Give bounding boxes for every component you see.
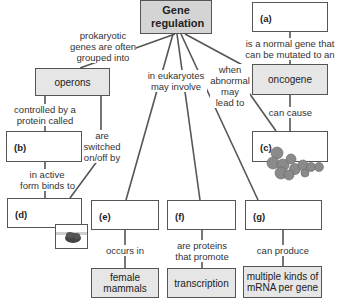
link-text: can produce <box>255 245 311 256</box>
link-text: abnormal <box>210 75 250 86</box>
node-b-label: (b) <box>14 142 26 153</box>
node-oncogene: oncogene <box>252 64 328 95</box>
link-text: protein called <box>10 115 80 126</box>
operons-text: operons <box>54 77 90 88</box>
link-text: grouped into <box>70 52 136 63</box>
oncogene-text: oncogene <box>268 74 312 85</box>
node-b-blank[interactable]: (b) <box>6 131 82 162</box>
link-abnormal: when abnormal may lead to <box>210 64 250 108</box>
link-can-produce: can produce <box>255 245 311 256</box>
mrna-line2: mRNA per gene <box>247 282 318 293</box>
protein-dna-image <box>55 224 88 249</box>
node-e-label: (e) <box>99 211 111 222</box>
title-text: Gene regulation <box>151 4 201 30</box>
link-text: on/off by <box>82 152 122 163</box>
link-text: is a normal gene that <box>244 38 336 49</box>
link-text: switched <box>82 141 122 152</box>
link-text: may involve <box>145 81 207 92</box>
node-f-label: (f) <box>175 211 185 222</box>
female-mammals-line2: mammals <box>103 283 146 294</box>
node-g-label: (g) <box>253 211 265 222</box>
link-text: in active <box>20 169 74 180</box>
link-can-cause: can cause <box>268 107 313 118</box>
link-text: may <box>210 86 250 97</box>
link-switched: are switched on/off by <box>82 130 122 163</box>
gene-regulation-title-node: Gene regulation <box>140 0 212 34</box>
link-text: genes are often <box>70 41 136 52</box>
node-transcription: transcription <box>167 268 236 298</box>
link-occurs-in: occurs in <box>102 245 148 256</box>
link-text: that promote <box>172 251 232 262</box>
node-operons: operons <box>35 68 110 96</box>
node-g-blank[interactable]: (g) <box>245 200 322 230</box>
female-mammals-line1: female <box>110 272 140 283</box>
transcription-text: transcription <box>174 278 228 289</box>
link-text: prokaryotic <box>70 30 136 41</box>
link-normal-gene: is a normal gene that can be mutated to … <box>244 38 336 60</box>
node-d-label: (d) <box>15 209 27 220</box>
node-e-blank[interactable]: (e) <box>91 200 159 230</box>
link-text: occurs in <box>102 245 148 256</box>
link-text: form binds to <box>20 180 74 191</box>
link-text: are <box>82 130 122 141</box>
link-text: in eukaryotes <box>145 70 207 81</box>
link-text: when <box>210 64 250 75</box>
node-a-blank[interactable]: (a) <box>252 2 328 32</box>
link-proteins-promote: are proteins that promote <box>172 240 232 262</box>
link-text: controlled by a <box>10 104 80 115</box>
link-text: are proteins <box>172 240 232 251</box>
mrna-line1: multiple kinds of <box>247 271 319 282</box>
tumor-cells-image <box>265 145 335 185</box>
node-mrna: multiple kinds of mRNA per gene <box>243 266 322 298</box>
link-text: can cause <box>268 107 313 118</box>
link-prokaryotic: prokaryotic genes are often grouped into <box>70 30 136 63</box>
link-controlled: controlled by a protein called <box>10 104 80 126</box>
node-f-blank[interactable]: (f) <box>167 200 236 230</box>
link-text: can be mutated to an <box>244 49 336 60</box>
link-text: lead to <box>210 97 250 108</box>
node-a-label: (a) <box>260 13 272 24</box>
node-female-mammals: female mammals <box>91 268 159 298</box>
link-eukaryotes: in eukaryotes may involve <box>145 70 207 92</box>
link-active-form: in active form binds to <box>20 169 74 191</box>
